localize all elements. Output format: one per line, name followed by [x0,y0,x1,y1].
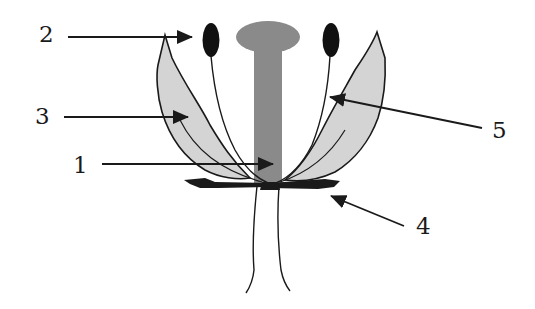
pistil [236,21,300,186]
right-anther [323,23,340,57]
pistil-stigma [236,21,300,53]
stem-left-edge [246,186,257,293]
label-2: 2 [39,23,54,46]
receptacle [260,182,280,190]
label-1: 1 [73,154,88,177]
stem-right-edge [278,186,290,291]
arrow-4 [331,196,404,226]
label-3: 3 [35,105,50,128]
label-5: 5 [492,119,507,142]
left-petal [157,35,250,179]
label-4: 4 [416,215,431,238]
left-anther [203,23,220,57]
